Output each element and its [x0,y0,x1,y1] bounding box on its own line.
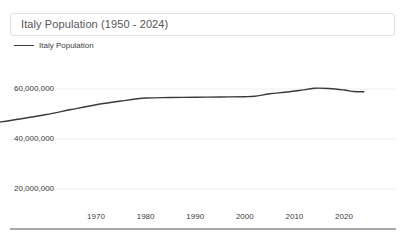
chart-container: Italy Population (1950 - 2024) Italy Pop… [0,0,404,250]
gridlines [10,89,396,189]
plot-area: 20,000,00040,000,00060,000,000 197019801… [0,0,404,250]
y-axis-tick-label: 60,000,000 [14,84,54,93]
x-axis-tick-label: 2010 [285,212,303,221]
series-line-italy-population [0,88,364,122]
y-axis-tick-label: 40,000,000 [14,134,54,143]
x-axis-tick-label: 1990 [186,212,204,221]
x-axis-tick-label: 2020 [335,212,353,221]
y-axis-tick-label: 20,000,000 [14,184,54,193]
x-axis-tick-label: 1980 [137,212,155,221]
x-axis-tick-label: 1970 [87,212,105,221]
x-axis-tick-label: 2000 [236,212,254,221]
